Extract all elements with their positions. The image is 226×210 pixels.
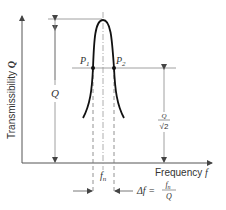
delta-f-numerator: fn [165,180,170,190]
half-power-numerator: Q [161,112,166,120]
delta-f-denominator: Q [166,192,172,201]
half-power-denominator: √2 [160,122,169,131]
point-p2 [112,66,116,70]
p2-label: P2 [115,55,126,68]
resonance-curve [83,20,124,118]
p1-label: P1 [79,55,90,68]
resonance-diagram: Transmissibility Q Frequency f Q Q √2 P1… [0,0,226,210]
y-axis-label: Transmissibility Q [6,61,17,139]
fn-label: fn [100,170,107,183]
peak-q-label: Q [51,87,59,99]
x-axis-label: Frequency f [155,167,209,178]
delta-f-prefix: Δf = [136,185,155,196]
point-p1 [91,66,95,70]
